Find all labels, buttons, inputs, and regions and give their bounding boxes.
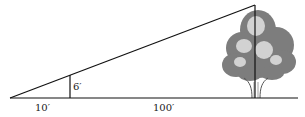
near-distance-label: 10′	[35, 102, 51, 113]
post-height-label: 6′	[73, 81, 82, 92]
tree-icon	[222, 10, 296, 98]
far-distance-label: 100′	[153, 102, 175, 113]
sight-line	[10, 5, 255, 98]
similar-triangles-diagram: 6′ 10′ 100′	[0, 0, 305, 117]
